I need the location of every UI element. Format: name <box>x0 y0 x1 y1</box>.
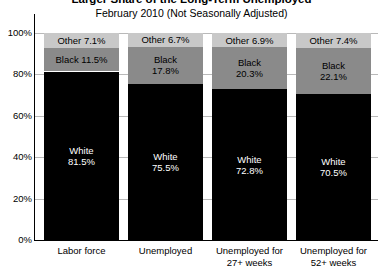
segment-label-white-value: 81.5% <box>68 156 95 167</box>
segment-label-black-value: 17.8% <box>152 65 179 76</box>
chart-title-block: Larger Share of the Long-Term Unemployed… <box>0 0 383 20</box>
segment-label-other: Other 7.1% <box>57 35 105 46</box>
segment-label-black: Black 11.5% <box>55 54 107 65</box>
segment-label-black-value: 22.1% <box>320 71 347 82</box>
segment-label-black-value: 20.3% <box>236 68 263 79</box>
y-tick-label-60: 60% <box>1 111 32 121</box>
segment-label-black-name: Black <box>322 60 345 71</box>
x-label-unemployed: Unemployed <box>128 245 203 257</box>
y-tick-label-80: 80% <box>1 69 32 79</box>
segment-label-black-name: Black <box>238 57 261 68</box>
segment-black[interactable]: Black 20.3% <box>212 47 287 89</box>
x-label-line-1: Unemployed for <box>206 245 293 257</box>
x-label-line-2: 27+ weeks <box>206 257 293 269</box>
chart-container: Larger Share of the Long-Term Unemployed… <box>0 0 383 272</box>
x-label-line-2: 52+ weeks <box>290 257 377 269</box>
bar-unemployed[interactable]: Other 6.7% Black 17.8% White 75.5% <box>128 33 203 240</box>
segment-black[interactable]: Black 17.8% <box>128 47 203 84</box>
y-tick-label-100: 100% <box>1 28 32 38</box>
segment-white[interactable]: White 81.5% <box>44 72 119 241</box>
y-tick-label-20: 20% <box>1 194 32 204</box>
x-label-line-1: Labor force <box>44 245 119 257</box>
bar-unemployed-27-weeks[interactable]: Other 6.9% Black 20.3% White 72.8% <box>212 33 287 240</box>
segment-label-white-value: 70.5% <box>320 167 347 178</box>
segment-label-white-value: 72.8% <box>236 165 263 176</box>
segment-other[interactable]: Other 7.4% <box>296 33 371 48</box>
segment-label-other: Other 7.4% <box>309 35 357 46</box>
segment-white[interactable]: White 72.8% <box>212 89 287 240</box>
segment-label-black-name: Black <box>154 54 177 65</box>
chart-subtitle: February 2010 (Not Seasonally Adjusted) <box>0 6 383 20</box>
segment-black[interactable]: Black 22.1% <box>296 48 371 94</box>
x-label-unemployed-27-weeks: Unemployed for 27+ weeks <box>206 245 293 268</box>
segment-other[interactable]: Other 6.7% <box>128 33 203 47</box>
x-label-labor-force: Labor force <box>44 245 119 257</box>
bar-labor-force[interactable]: Other 7.1% Black 11.5% White 81.5% <box>44 33 119 240</box>
segment-label-white-value: 75.5% <box>152 162 179 173</box>
segment-white[interactable]: White 70.5% <box>296 94 371 240</box>
plot-area: Other 7.1% Black 11.5% White 81.5% Other… <box>35 33 378 240</box>
x-axis-line <box>34 240 378 241</box>
segment-label-white-name: White <box>69 145 93 156</box>
x-label-unemployed-52-weeks: Unemployed for 52+ weeks <box>290 245 377 268</box>
y-tick-label-40: 40% <box>1 152 32 162</box>
segment-label-white-name: White <box>153 151 177 162</box>
segment-white[interactable]: White 75.5% <box>128 84 203 240</box>
x-label-line-1: Unemployed for <box>290 245 377 257</box>
segment-label-white-name: White <box>321 156 345 167</box>
segment-black[interactable]: Black 11.5% <box>44 48 119 72</box>
segment-label-other: Other 6.9% <box>225 35 273 46</box>
segment-label-other: Other 6.7% <box>141 34 189 45</box>
segment-label-white-name: White <box>237 154 261 165</box>
x-label-line-1: Unemployed <box>128 245 203 257</box>
segment-other[interactable]: Other 7.1% <box>44 33 119 48</box>
segment-other[interactable]: Other 6.9% <box>212 33 287 47</box>
bar-unemployed-52-weeks[interactable]: Other 7.4% Black 22.1% White 70.5% <box>296 33 371 240</box>
y-tick-label-0: 0% <box>1 235 32 245</box>
y-axis-tick-labels: 100% 80% 60% 40% 20% 0% <box>0 33 32 240</box>
